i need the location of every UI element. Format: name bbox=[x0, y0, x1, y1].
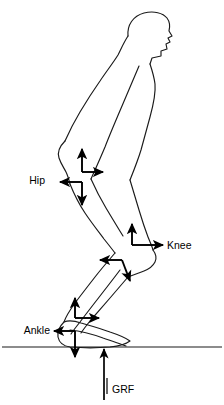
grf-label: GRF bbox=[112, 383, 134, 395]
shank-rear-outline bbox=[64, 253, 115, 322]
knee-arrow-down bbox=[122, 260, 130, 281]
head-outline bbox=[128, 12, 172, 64]
foot-instep-line bbox=[70, 330, 126, 346]
grf-group: GRF bbox=[104, 349, 134, 400]
figure-canvas: Hip Knee Ankle GRF bbox=[0, 0, 224, 405]
torso-front-outline bbox=[130, 64, 155, 180]
thigh-rear-outline bbox=[70, 184, 115, 253]
knee-label: Knee bbox=[167, 239, 192, 251]
ankle-label: Ankle bbox=[24, 324, 50, 336]
body-outline-group bbox=[58, 12, 172, 348]
thigh-front-line bbox=[130, 180, 153, 250]
hip-label: Hip bbox=[29, 174, 45, 186]
torso-back-outline bbox=[65, 36, 128, 141]
knee-front-outline bbox=[128, 250, 156, 277]
hip-buttock-outline bbox=[58, 141, 70, 184]
biomechanics-figure: Hip Knee Ankle GRF bbox=[0, 0, 224, 405]
calf-inner-line bbox=[71, 270, 120, 334]
